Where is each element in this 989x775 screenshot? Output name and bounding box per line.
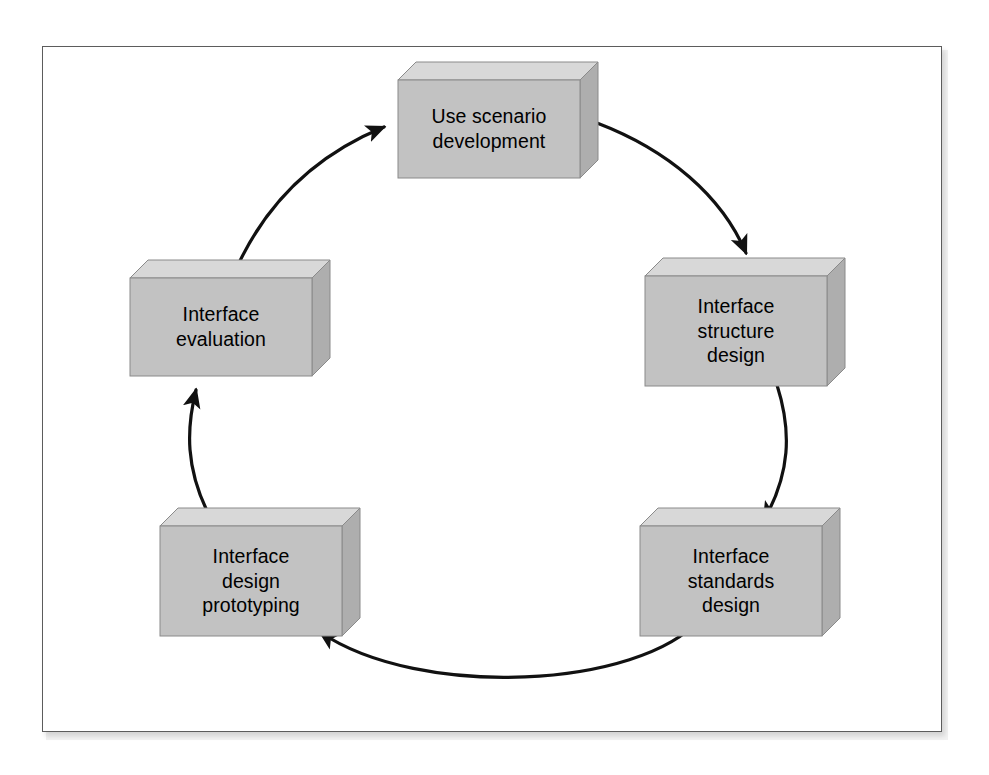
box-3d-shape [640,508,840,636]
box-3d-shape [645,258,845,386]
edge-structure-to-standards [764,385,786,520]
process-box-interface-standards-design[interactable]: Interface standards design [640,508,840,636]
process-box-interface-design-prototyping[interactable]: Interface design prototyping [160,508,360,636]
figure-page: Use scenario development Interface struc… [0,0,989,775]
process-box-interface-evaluation[interactable]: Interface evaluation [130,260,330,376]
box-3d-shape [160,508,360,636]
box-3d-shape [130,260,330,376]
edge-use-scenario-to-structure [597,123,746,253]
box-3d-shape [398,62,598,178]
edge-prototyping-to-evaluation [190,390,208,513]
process-box-use-scenario-development[interactable]: Use scenario development [398,62,598,178]
edge-evaluation-to-use-scenario [238,127,384,265]
process-box-interface-structure-design[interactable]: Interface structure design [645,258,845,386]
